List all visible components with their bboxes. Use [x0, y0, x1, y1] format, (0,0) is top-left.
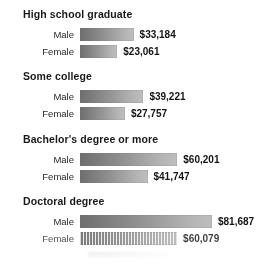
- bar-row: Male $81,687: [0, 215, 273, 229]
- bar-row: Female $60,079: [0, 232, 273, 246]
- bar-value-label: $39,221: [149, 90, 185, 103]
- bar-row-label: Male: [0, 90, 74, 104]
- bar-value-label: $60,079: [183, 232, 219, 245]
- group-title: Some college: [23, 70, 92, 82]
- bar-value-label: $27,757: [131, 107, 167, 120]
- scan-bleed-artifact: [88, 252, 168, 259]
- bar-value-label: $41,747: [154, 170, 190, 183]
- group-title: Bachelor's degree or more: [23, 133, 158, 145]
- bar: [80, 90, 143, 103]
- bar-row: Female $41,747: [0, 170, 273, 184]
- bar: [80, 28, 134, 41]
- bar-track: [80, 45, 117, 58]
- bar-value-label: $81,687: [218, 215, 254, 228]
- bar-track: [80, 90, 143, 103]
- bar-chart: High school graduate Male $33,184 Female…: [0, 0, 273, 266]
- bar-track: [80, 107, 125, 120]
- bar-row-label: Female: [0, 232, 74, 246]
- bar: [80, 170, 148, 183]
- bar-track: [80, 28, 134, 41]
- bar-track: [80, 170, 148, 183]
- bar-row: Female $23,061: [0, 45, 273, 59]
- bar-value-label: $23,061: [123, 45, 159, 58]
- bar-row: Male $39,221: [0, 90, 273, 104]
- bar-row-label: Male: [0, 153, 74, 167]
- bar-row: Male $60,201: [0, 153, 273, 167]
- bar: [80, 107, 125, 120]
- bar-track: [80, 232, 177, 245]
- bar-value-label: $60,201: [183, 153, 219, 166]
- bar-row: Female $27,757: [0, 107, 273, 121]
- group-title: High school graduate: [23, 8, 132, 20]
- bar: [80, 215, 212, 228]
- bar-track: [80, 153, 177, 166]
- bar-row: Male $33,184: [0, 28, 273, 42]
- bar-row-label: Male: [0, 28, 74, 42]
- bar-track: [80, 215, 212, 228]
- group-title: Doctoral degree: [23, 195, 104, 207]
- bar: [80, 153, 177, 166]
- bar: [80, 232, 177, 245]
- bar-value-label: $33,184: [140, 28, 176, 41]
- bar-row-label: Female: [0, 170, 74, 184]
- bar-row-label: Female: [0, 107, 74, 121]
- bar: [80, 45, 117, 58]
- bar-row-label: Female: [0, 45, 74, 59]
- bar-row-label: Male: [0, 215, 74, 229]
